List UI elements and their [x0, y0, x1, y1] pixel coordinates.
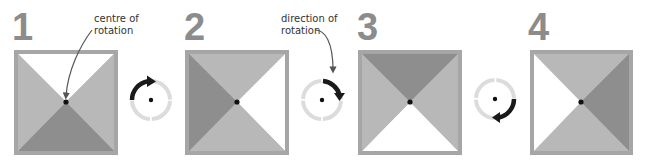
square-panel-3 [358, 50, 462, 155]
arrowhead-icon [492, 112, 500, 123]
rotation-diagram [0, 0, 646, 162]
centre-dot [63, 99, 68, 104]
centre-dot [407, 99, 412, 104]
centre-dot [578, 99, 583, 104]
square-panel-1 [14, 50, 118, 155]
rotation-arrow-arc [323, 81, 340, 95]
arrowhead-icon [334, 93, 345, 101]
centre-dot [234, 99, 239, 104]
direction-pointer-arrow [315, 30, 333, 70]
square-panel-2 [185, 50, 289, 155]
rotation-indicator-3 [476, 80, 514, 123]
rotation-arrow-arc [132, 81, 148, 100]
arrowhead-icon [147, 76, 156, 88]
rotation-arrow-arc [499, 99, 514, 118]
rotation-indicator-1 [132, 76, 170, 120]
square-panel-4 [530, 50, 633, 155]
rotation-indicator-2 [303, 81, 345, 119]
